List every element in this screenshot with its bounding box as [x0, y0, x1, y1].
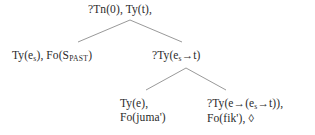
- root-node-label: ?Tn(0), Ty(t),: [88, 3, 152, 17]
- right-arrow-icon: →: [182, 49, 194, 61]
- leaf-right-arrow2-icon: →: [257, 97, 269, 109]
- left-type-subscript: s: [33, 54, 36, 63]
- leaf-right-prefix: ?Ty(e: [207, 97, 234, 109]
- leaf-right-formula: Fo(fik'),: [207, 112, 248, 124]
- edge-root-to-right: [130, 20, 182, 42]
- tree-node-left-child: Ty(es), Fo(SPAST): [12, 49, 92, 64]
- leaf-right-line2: Fo(fik'), ◊: [207, 112, 283, 126]
- tree-node-leaf-left: Ty(e), Fo(juma'): [120, 97, 166, 124]
- semantic-tree-diagram: ?Tn(0), Ty(t), Ty(es), Fo(SPAST) ?Ty(es→…: [0, 0, 315, 135]
- right-child-label: ?Ty(es→t): [152, 49, 201, 64]
- tree-node-right-child: ?Ty(es→t): [152, 49, 201, 64]
- leaf-right-subscript: s: [254, 102, 257, 111]
- leaf-right-mid: (e: [245, 97, 254, 109]
- left-child-label: Ty(es), Fo(SPAST): [12, 49, 92, 64]
- right-prefix: ?Ty(e: [152, 49, 179, 61]
- left-formula-subscript: PAST: [69, 54, 88, 63]
- leaf-right-arrow1-icon: →: [234, 97, 246, 109]
- left-formula-suffix: ): [88, 49, 92, 61]
- right-subscript: s: [179, 54, 182, 63]
- leaf-left-line2: Fo(juma'): [120, 111, 166, 125]
- left-type-suffix: ), Fo(S: [36, 49, 69, 61]
- left-type-prefix: Ty(e: [12, 49, 33, 61]
- leaf-left-line1: Ty(e),: [120, 97, 166, 111]
- edge-right-to-leaf-left: [146, 68, 186, 90]
- tree-node-leaf-right: ?Ty(e→(es→t)), Fo(fik'), ◊: [207, 97, 283, 125]
- leaf-right-line1: ?Ty(e→(es→t)),: [207, 97, 283, 112]
- right-suffix: t): [193, 49, 200, 61]
- edge-root-to-left: [78, 20, 130, 42]
- diamond-operator-icon: ◊: [248, 112, 254, 124]
- leaf-right-suffix: t)),: [269, 97, 283, 109]
- tree-node-root: ?Tn(0), Ty(t),: [88, 3, 152, 17]
- edge-right-to-leaf-right: [186, 68, 226, 90]
